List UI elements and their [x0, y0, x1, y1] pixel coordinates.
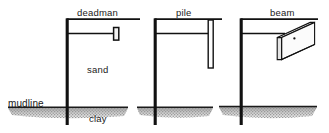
label-mudline: mudline — [8, 99, 44, 109]
anchor-beam-tie-connection-dot — [293, 37, 295, 39]
deadman-anchor-block — [114, 28, 119, 41]
anchor-pile — [208, 20, 213, 68]
panel-beam — [217, 18, 319, 125]
label-deadman: deadman — [77, 8, 118, 18]
panel-pile — [135, 18, 222, 125]
figure-svg — [0, 0, 329, 133]
anchor-beam-3d — [277, 22, 314, 59]
label-sand: sand — [87, 65, 108, 75]
label-beam: beam — [270, 8, 295, 18]
anchorage-types-figure: deadman pile beam sand clay mudline — [0, 0, 329, 133]
label-pile: pile — [176, 8, 192, 18]
panel-deadman — [6, 18, 140, 125]
anchor-beam-left-end — [277, 38, 281, 60]
soil-band-pile — [135, 106, 215, 120]
label-clay: clay — [89, 114, 107, 124]
